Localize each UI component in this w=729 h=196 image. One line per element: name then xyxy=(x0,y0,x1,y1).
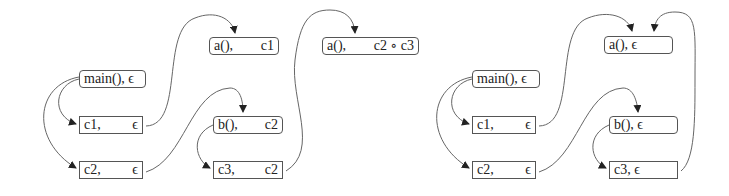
node-label: c3, xyxy=(218,162,235,178)
node-label: b(), xyxy=(218,117,238,133)
node-label: a(), xyxy=(214,38,233,54)
node-a-right: a(), ϵ xyxy=(604,36,673,54)
node-label: a(), xyxy=(327,38,346,54)
node-label: a(), ϵ xyxy=(609,37,637,53)
edge-c3-a2 xyxy=(286,10,355,171)
node-c3-right: c3, ϵ xyxy=(609,161,678,179)
node-label: c2, xyxy=(477,162,494,178)
node-context: c2 xyxy=(265,117,278,133)
edge-main-c1-r xyxy=(452,79,472,124)
node-c3-left: c3, c2 xyxy=(213,161,283,179)
edge-b-c3-r xyxy=(593,125,609,168)
node-c2-right: c2, ϵ xyxy=(472,161,536,179)
node-context: ϵ xyxy=(525,117,531,133)
edge-c1-a xyxy=(146,15,235,126)
node-context: c2 xyxy=(265,162,278,178)
node-label: c2, xyxy=(84,162,101,178)
edge-c1-a-r xyxy=(539,14,632,126)
node-c2-left: c2, ϵ xyxy=(79,161,143,179)
node-main-right: main(), ϵ xyxy=(472,70,540,88)
node-context: ϵ xyxy=(525,162,531,178)
node-context: c2 ∘ c3 xyxy=(374,38,414,54)
node-label: c1, xyxy=(84,117,101,133)
node-label: c3, ϵ xyxy=(614,162,640,178)
node-b-left: b(), c2 xyxy=(213,116,283,134)
node-c1-left: c1, ϵ xyxy=(79,116,143,134)
node-label: main(), ϵ xyxy=(84,71,134,87)
node-main-left: main(), ϵ xyxy=(79,70,146,88)
edge-main-c1 xyxy=(59,79,79,124)
node-context: ϵ xyxy=(132,117,138,133)
node-a-c2c3-left: a(), c2 ∘ c3 xyxy=(322,37,419,55)
node-label: c1, xyxy=(477,117,494,133)
node-b-right: b(), ϵ xyxy=(609,116,678,134)
node-label: main(), ϵ xyxy=(477,71,527,87)
node-c1-right: c1, ϵ xyxy=(472,116,536,134)
node-context: ϵ xyxy=(132,162,138,178)
node-context: c1 xyxy=(261,38,274,54)
node-a-c1-left: a(), c1 xyxy=(209,37,279,55)
node-label: b(), ϵ xyxy=(614,117,643,133)
edge-b-c3 xyxy=(197,125,213,168)
